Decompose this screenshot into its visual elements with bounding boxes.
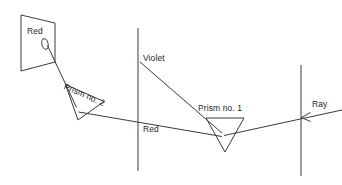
label-red-beam: Red [143, 125, 159, 134]
diagram-canvas [0, 0, 342, 185]
label-violet: Violet [143, 54, 165, 63]
label-red-screen: Red [27, 27, 43, 36]
beam-prism2-to-screen [48, 46, 77, 108]
label-ray: Ray [312, 100, 327, 109]
beam-violet [140, 62, 222, 133]
aperture-hole-icon [41, 38, 50, 50]
red-screen-board [21, 15, 55, 71]
prism-ray-diagram: Red Prism no. 2 Violet Red Prism no. 1 R… [0, 0, 342, 185]
label-prism-one: Prism no. 1 [198, 104, 242, 113]
